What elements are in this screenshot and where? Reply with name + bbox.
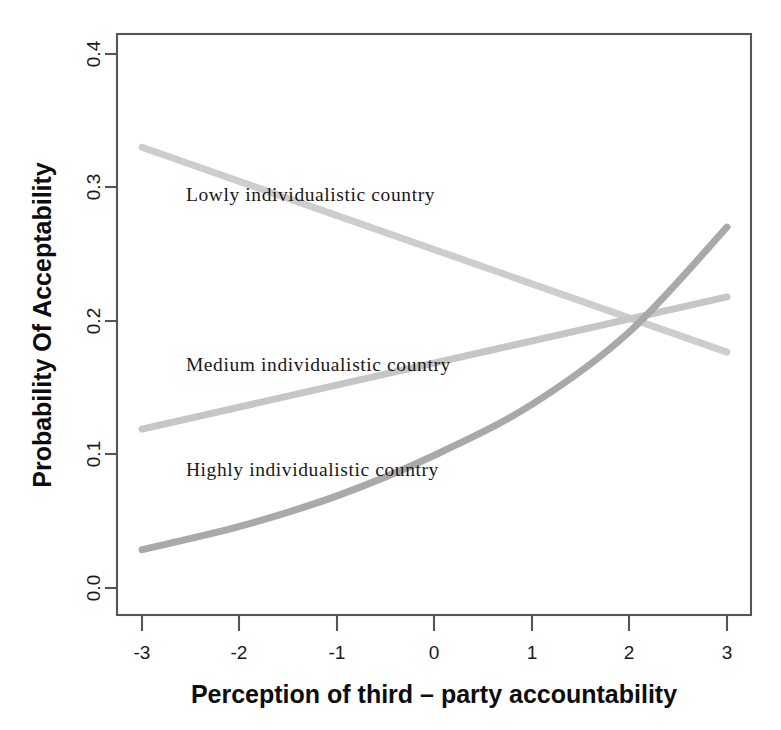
x-axis-ticks: [142, 615, 727, 631]
series-annotation-lowly: Lowly individualistic country: [186, 184, 435, 205]
line-chart: 0.4 0.3 0.2 0.1 0.0 Probability Of Accep…: [0, 0, 781, 730]
y-tick-label: 0.1: [83, 441, 104, 467]
y-tick-label: 0.0: [83, 575, 104, 601]
y-axis-ticks: [105, 54, 117, 588]
x-tick-label: 0: [429, 642, 440, 663]
x-axis-title: Perception of third – party accountabili…: [191, 680, 677, 708]
x-tick-label: -1: [329, 642, 346, 663]
y-tick-label: 0.4: [83, 40, 104, 67]
y-tick-label: 0.3: [83, 174, 104, 200]
x-axis-tick-labels: -3 -2 -1 0 1 2 3: [134, 642, 733, 663]
series-annotation-highly: Highly individualistic country: [186, 459, 439, 480]
series-annotation-medium: Medium individualistic country: [186, 354, 451, 375]
series-line-highly: [142, 227, 727, 549]
x-tick-label: -2: [231, 642, 248, 663]
x-tick-label: 2: [624, 642, 635, 663]
y-axis-title: Probability Of Acceptability: [28, 162, 56, 488]
y-tick-label: 0.2: [83, 308, 104, 334]
chart-figure: 0.4 0.3 0.2 0.1 0.0 Probability Of Accep…: [0, 0, 781, 730]
y-axis-tick-labels: 0.4 0.3 0.2 0.1 0.0: [83, 40, 104, 601]
x-tick-label: 1: [527, 642, 538, 663]
x-tick-label: -3: [134, 642, 151, 663]
series-lines: [142, 147, 727, 549]
x-tick-label: 3: [722, 642, 733, 663]
